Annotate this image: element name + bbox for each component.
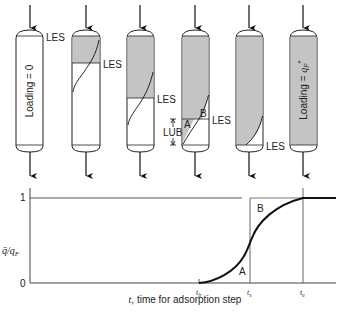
- les-label: LES: [266, 141, 285, 152]
- x-axis-label: t, time for adsorption step: [129, 294, 242, 305]
- loaded-region: [128, 36, 154, 98]
- column-5: LES: [236, 5, 285, 176]
- column-2: LES: [72, 5, 122, 176]
- breakthrough-chart: A B 1 0 q̄/qF tb ts te t, time for adsor…: [2, 188, 336, 305]
- les-label: LES: [103, 59, 122, 70]
- lub-label: LUB: [163, 127, 183, 138]
- svg-text:Loading = qF*: Loading = qF*: [296, 60, 310, 119]
- column-1: Loading = 0 LES: [16, 5, 65, 176]
- loading-qf-label: Loading = qF*: [296, 60, 310, 119]
- ytick-0: 0: [20, 278, 26, 289]
- breakthrough-curve: [199, 198, 336, 283]
- adsorption-diagram: Loading = 0 LES LES LES A: [0, 0, 341, 312]
- les-label: LES: [212, 115, 231, 126]
- loaded-region: [73, 36, 100, 63]
- region-b-label: B: [257, 203, 264, 214]
- loading-zero-label: Loading = 0: [24, 64, 35, 117]
- xtick-ts: ts: [247, 288, 252, 298]
- column-4: A B LUB LES: [162, 5, 231, 176]
- ytick-1: 1: [20, 192, 26, 203]
- column-6: Loading = qF*: [290, 5, 317, 176]
- column-3: LES: [127, 5, 176, 176]
- region-a-label: A: [184, 119, 191, 130]
- xtick-te: te: [300, 288, 305, 298]
- les-label: LES: [46, 32, 65, 43]
- region-b-label: B: [200, 108, 207, 119]
- les-label: LES: [157, 94, 176, 105]
- y-axis-label: q̄/qF: [2, 245, 20, 258]
- region-a-label: A: [239, 266, 246, 277]
